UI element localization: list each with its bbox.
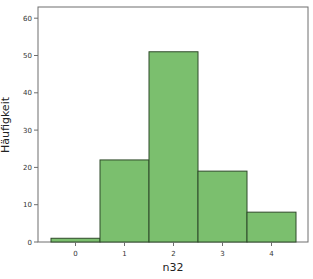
y-axis: 0102030405060 (23, 15, 38, 247)
y-tick-label: 10 (23, 201, 32, 209)
x-tick-label: 0 (73, 250, 77, 258)
histogram-bar (198, 171, 247, 242)
y-tick-label: 60 (23, 15, 32, 23)
x-axis-title: n32 (163, 261, 184, 274)
x-tick-label: 2 (171, 250, 175, 258)
x-tick-label: 4 (269, 250, 274, 258)
histogram-bar (149, 52, 198, 242)
y-axis-title: Häufigkeit (0, 96, 12, 153)
histogram-bar (247, 212, 296, 242)
histogram-bar (100, 160, 149, 242)
y-tick-label: 20 (23, 164, 32, 172)
y-tick-label: 30 (23, 127, 32, 135)
y-tick-label: 40 (23, 89, 32, 97)
x-tick-label: 1 (122, 250, 126, 258)
y-tick-label: 50 (23, 52, 32, 60)
x-tick-label: 3 (220, 250, 224, 258)
y-tick-label: 0 (28, 239, 32, 247)
histogram-chart: 0102030405060 01234 n32 Häufigkeit (0, 0, 313, 279)
histogram-bar (51, 238, 100, 242)
x-axis: 01234 (73, 242, 274, 258)
